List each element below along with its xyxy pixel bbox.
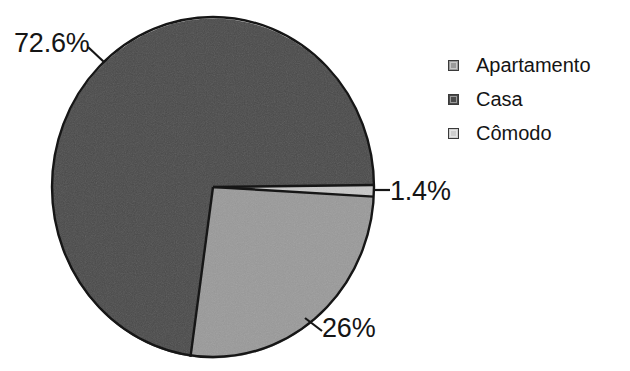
legend-item-apartamento[interactable]: Apartamento — [448, 48, 626, 82]
legend-swatch-casa — [448, 94, 459, 105]
chart-legend: Apartamento Casa Cômodo — [448, 48, 626, 150]
slice-label-apartamento: 26% — [322, 313, 375, 344]
legend-label-apartamento: Apartamento — [476, 55, 591, 75]
slice-label-comodo: 1.4% — [390, 176, 451, 207]
legend-label-comodo: Cômodo — [476, 123, 552, 143]
legend-item-casa[interactable]: Casa — [448, 82, 626, 116]
leader-line-casa — [88, 47, 104, 62]
slice-label-casa: 72.6% — [14, 28, 90, 59]
legend-swatch-apartamento — [448, 60, 459, 71]
legend-label-casa: Casa — [476, 89, 523, 109]
pie-chart-figure: 72.6% 1.4% 26% Apartamento Casa Cômodo — [0, 0, 630, 371]
legend-item-comodo[interactable]: Cômodo — [448, 116, 626, 150]
legend-swatch-comodo — [448, 128, 459, 139]
